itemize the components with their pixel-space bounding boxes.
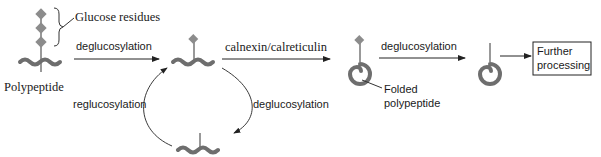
folded-label-line2: polypeptide (384, 97, 440, 109)
folded-label-line1: Folded (384, 83, 418, 95)
arrow-cycle-deglucosylation (222, 68, 252, 133)
deglucosylated-glycoprotein (178, 133, 218, 153)
glucose-diamond-icon (35, 22, 46, 33)
glucose-diamond-icon (35, 8, 46, 19)
glucose-residues-label: Glucose residues (75, 10, 160, 24)
deglucosylation-label-2: deglucosylation (253, 98, 329, 110)
polypeptide-label: Polypeptide (4, 80, 64, 94)
folded-glycoprotein (350, 35, 370, 84)
brace (54, 8, 63, 46)
calnexin-calreticulin-label: calnexin/calreticulin (225, 40, 328, 54)
initial-glycoprotein (20, 8, 74, 72)
glycoprotein-folding-diagram: Glucose residues Polypeptide deglucosyla… (0, 0, 601, 157)
arrow-reglucosylation (144, 68, 172, 146)
glucose-diamond-icon (188, 34, 198, 44)
monoglucosylated-glycoprotein (173, 34, 213, 64)
glucose-diamond-icon (354, 35, 364, 45)
final-folded-polypeptide (480, 43, 500, 84)
further-label-line1: Further (537, 45, 573, 57)
reglucosylation-label: reglucosylation (73, 98, 146, 110)
glucose-diamond-icon (35, 36, 46, 47)
deglucosylation-label-3: deglucosylation (381, 40, 457, 52)
deglucosylation-label-1: deglucosylation (76, 40, 152, 52)
further-label-line2: processing (537, 59, 590, 71)
